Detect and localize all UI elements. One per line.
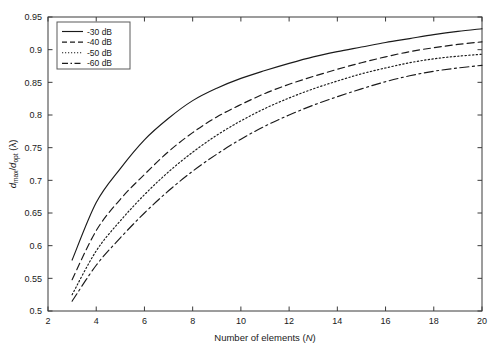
y-tick-label-0.75: 0.75 [24, 143, 42, 153]
y-tick-labels: 0.50.550.60.650.70.750.80.850.90.95 [24, 12, 42, 316]
curve-60-db [72, 65, 482, 301]
x-tick-label-14: 14 [332, 316, 342, 326]
legend-label-0: -30 dB [87, 27, 112, 37]
x-tick-label-12: 12 [284, 316, 294, 326]
x-tick-label-6: 6 [142, 316, 147, 326]
legend-label-1: -40 dB [87, 37, 112, 47]
x-tick-label-16: 16 [381, 316, 391, 326]
curve-50-db [72, 54, 482, 294]
y-axis-title: dmax/dopt (λ) [7, 140, 20, 189]
legend-label-3: -60 dB [87, 58, 112, 68]
y-tick-label-0.85: 0.85 [24, 78, 42, 88]
y-tick-label-0.7: 0.7 [29, 176, 42, 186]
legend-label-2: -50 dB [87, 48, 112, 58]
data-curves [72, 29, 482, 301]
y-tick-label-0.55: 0.55 [24, 274, 42, 284]
x-axis-title: Number of elements (N) [214, 332, 315, 343]
y-tick-label-0.9: 0.9 [29, 45, 42, 55]
x-tick-label-2: 2 [45, 316, 50, 326]
y-tick-label-0.65: 0.65 [24, 208, 42, 218]
x-tick-label-10: 10 [236, 316, 246, 326]
y-tick-label-0.6: 0.6 [29, 241, 42, 251]
x-tick-label-4: 4 [94, 316, 99, 326]
y-tick-label-0.8: 0.8 [29, 110, 42, 120]
chart-canvas: 2468101214161820 0.50.550.60.650.70.750.… [0, 0, 498, 348]
x-tick-labels: 2468101214161820 [45, 316, 487, 326]
x-tick-label-8: 8 [190, 316, 195, 326]
x-tick-label-18: 18 [429, 316, 439, 326]
x-tick-label-20: 20 [477, 316, 487, 326]
y-tick-label-0.95: 0.95 [24, 12, 42, 22]
curve-40-db [72, 42, 482, 280]
y-tick-label-0.5: 0.5 [29, 306, 42, 316]
figure-container: 2468101214161820 0.50.550.60.650.70.750.… [0, 0, 498, 348]
curve-30-db [72, 29, 482, 260]
legend: -30 dB-40 dB-50 dB-60 dB [57, 22, 130, 69]
